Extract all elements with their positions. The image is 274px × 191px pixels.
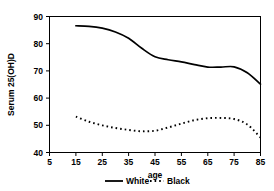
chart-legend: White Black (105, 176, 190, 186)
y-axis-ticks (46, 17, 50, 153)
x-tick-label: 15 (71, 157, 81, 167)
plot-frame (50, 17, 261, 153)
y-tick-label: 80 (34, 39, 44, 49)
legend-label-white: White (126, 176, 149, 186)
x-tick-label: 65 (203, 157, 213, 167)
x-tick-label: 75 (229, 157, 239, 167)
x-tick-label: 45 (150, 157, 160, 167)
y-axis-title: Serum 25(OH)D (6, 53, 16, 116)
x-tick-label: 5 (47, 157, 52, 167)
x-tick-label: 25 (98, 157, 108, 167)
y-tick-label: 90 (34, 12, 44, 22)
x-tick-label: 85 (256, 157, 266, 167)
x-tick-label: 55 (177, 157, 187, 167)
y-tick-label: 60 (34, 93, 44, 103)
x-axis-tick-labels: 5 15 25 35 45 55 65 75 85 (47, 157, 265, 167)
y-axis-tick-labels: 40 50 60 70 80 90 (34, 12, 44, 158)
y-tick-label: 40 (34, 148, 44, 158)
series-line-black (76, 117, 261, 138)
legend-label-black: Black (167, 176, 190, 186)
series-line-white (76, 26, 261, 84)
chart-container: 40 50 60 70 80 90 5 15 25 35 45 55 (0, 0, 274, 191)
x-axis-title: age (148, 170, 163, 180)
x-axis-ticks (50, 153, 261, 157)
line-chart: 40 50 60 70 80 90 5 15 25 35 45 55 (0, 0, 274, 191)
x-tick-label: 35 (124, 157, 134, 167)
y-tick-label: 70 (34, 66, 44, 76)
y-tick-label: 50 (34, 120, 44, 130)
